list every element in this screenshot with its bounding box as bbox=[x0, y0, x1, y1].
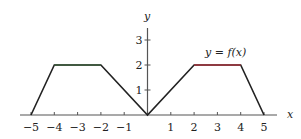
curve-label: y = f(x) bbox=[204, 46, 246, 59]
x-tick-label: 4 bbox=[237, 121, 244, 134]
y-tick-label: 3 bbox=[136, 34, 143, 47]
axes bbox=[20, 28, 277, 115]
x-tick-label: −4 bbox=[46, 121, 62, 134]
x-tick-label: 1 bbox=[167, 121, 174, 134]
y-axis-label: y bbox=[143, 10, 151, 23]
x-tick-label: −1 bbox=[116, 121, 132, 134]
x-tick-label: 3 bbox=[214, 121, 221, 134]
function-graph: −5−4−3−2−112345123 x y y = f(x) bbox=[0, 0, 301, 139]
x-tick-label: −3 bbox=[69, 121, 85, 134]
y-tick-label: 1 bbox=[136, 84, 143, 97]
x-axis-label: x bbox=[287, 108, 294, 121]
x-tick-label: 5 bbox=[261, 121, 268, 134]
x-tick-label: 2 bbox=[191, 121, 198, 134]
x-tick-label: −5 bbox=[23, 121, 39, 134]
y-tick-label: 2 bbox=[136, 59, 143, 72]
x-tick-label: −2 bbox=[93, 121, 109, 134]
